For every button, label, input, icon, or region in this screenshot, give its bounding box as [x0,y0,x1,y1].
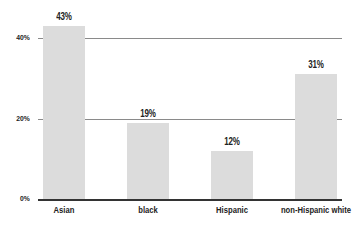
bar-chart: 0%20%40%43%Asian19%black12%Hispanic31%no… [0,0,363,228]
bar [43,26,85,199]
value-label: 31% [296,59,336,70]
category-label: non-Hispanic white [273,205,360,215]
value-label: 43% [44,11,84,22]
y-tick-label: 0% [4,194,30,203]
y-tick-label: 40% [4,33,30,42]
x-axis [38,199,342,201]
value-label: 19% [128,108,168,119]
value-label: 12% [212,136,252,147]
category-label: Hispanic [189,205,276,215]
bar [127,123,169,199]
bar [295,74,337,199]
y-tick-label: 20% [4,114,30,123]
category-label: Asian [21,205,108,215]
category-label: black [105,205,192,215]
bar [211,151,253,199]
